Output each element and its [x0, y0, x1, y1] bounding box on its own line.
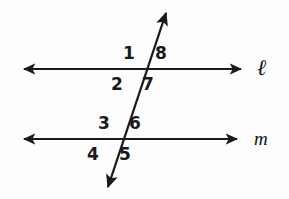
angle-label-7: 7: [139, 76, 157, 93]
angle-label-5: 5: [116, 146, 134, 163]
angle-label-8: 8: [152, 45, 170, 62]
line-label-l: ℓ: [257, 57, 266, 79]
geometry-figure: 1 8 2 7 3 6 4 5 ℓ m: [0, 0, 289, 199]
angle-label-4: 4: [84, 146, 102, 163]
geometry-canvas: [0, 0, 289, 199]
angle-label-1: 1: [120, 45, 138, 62]
angle-label-3: 3: [95, 115, 113, 132]
angle-label-2: 2: [108, 76, 126, 93]
angle-label-6: 6: [126, 115, 144, 132]
line-label-m: m: [254, 129, 268, 148]
